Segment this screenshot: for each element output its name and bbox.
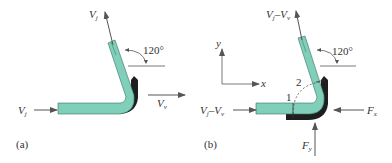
panel-a-label: (a) xyxy=(16,138,29,151)
outlet-relative-velocity-label: Vj–Vv xyxy=(266,8,291,22)
angle-label: 120° xyxy=(143,44,164,56)
fluid-jet xyxy=(58,40,134,114)
panel-b: y x 1 2 Vj–Vv Vj–Vv 120° Fx Fy (b) xyxy=(200,8,378,156)
section-2-label: 2 xyxy=(296,76,302,88)
vane-velocity-label: Vv xyxy=(157,97,168,111)
inlet-velocity-label: Vj xyxy=(18,104,27,118)
inlet-relative-velocity-label: Vj–Vv xyxy=(200,104,225,118)
force-y-label: Fy xyxy=(301,139,313,153)
outlet-arrow xyxy=(105,12,113,45)
panel-a: Vj Vj 120° Vv (a) xyxy=(16,8,185,151)
outlet-arrow xyxy=(296,11,302,40)
angle-label: 120° xyxy=(332,45,353,57)
section-1-label: 1 xyxy=(286,91,292,103)
x-axis-label: x xyxy=(260,77,266,89)
panel-b-label: (b) xyxy=(204,138,217,151)
angle-arrowhead-icon xyxy=(125,48,129,52)
y-axis-label: y xyxy=(215,37,221,49)
angle-arrowhead-icon xyxy=(317,48,321,52)
jet-vane-diagram: Vj Vj 120° Vv (a) y x 1 2 Vj–Vv xyxy=(0,0,392,163)
angle-arrowhead-icon xyxy=(335,60,339,64)
angle-arrowhead-icon xyxy=(144,60,148,64)
outlet-velocity-label: Vj xyxy=(89,8,98,22)
force-x-label: Fx xyxy=(366,104,378,118)
